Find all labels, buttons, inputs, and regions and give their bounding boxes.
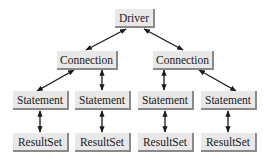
resultset-node-1: ResultSet xyxy=(13,133,69,152)
jdbc-hierarchy-diagram: Driver Connection Connection Statement S… xyxy=(0,0,269,159)
statement-node-2: Statement xyxy=(75,91,131,110)
statement-node-4: Statement xyxy=(201,91,257,110)
statement-node-1: Statement xyxy=(13,91,69,110)
connection-node-left: Connection xyxy=(57,51,118,70)
driver-node: Driver xyxy=(115,9,155,28)
resultset-node-3: ResultSet xyxy=(138,133,194,152)
resultset-node-4: ResultSet xyxy=(201,133,257,152)
resultset-node-2: ResultSet xyxy=(75,133,131,152)
statement-node-3: Statement xyxy=(138,91,194,110)
connection-node-right: Connection xyxy=(153,51,214,70)
